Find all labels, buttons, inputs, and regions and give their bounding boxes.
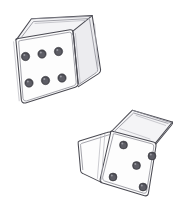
pip <box>25 79 33 87</box>
dice-sketch-artboard <box>0 0 185 222</box>
pip <box>120 141 128 149</box>
pip <box>109 173 117 181</box>
pip <box>41 76 49 84</box>
dice-sketch-canvas <box>0 0 185 222</box>
pip <box>139 183 147 191</box>
pip <box>38 50 46 58</box>
pip <box>133 162 141 170</box>
pip <box>54 47 62 55</box>
pip <box>148 152 156 160</box>
pip <box>58 74 66 82</box>
pip <box>21 52 29 60</box>
